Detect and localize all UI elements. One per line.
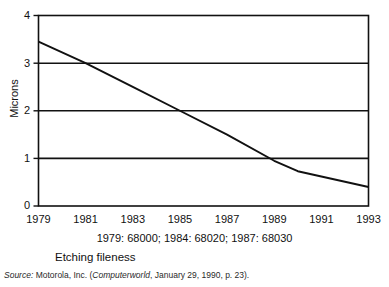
figure-etching-fineness: 0 1 2 3 4 Microns 1979 1981 1983 1985 19… bbox=[0, 0, 389, 287]
x-tick-label-1991: 1991 bbox=[301, 214, 341, 225]
chart-annotation: 1979: 68000; 1984: 68020; 1987: 68030 bbox=[0, 232, 389, 245]
source-rest: , January 29, 1990, p. 23). bbox=[150, 270, 249, 280]
x-tick-label-1993: 1993 bbox=[349, 214, 389, 225]
y-tick-label-1: 1 bbox=[8, 153, 30, 164]
x-tick-label-1985: 1985 bbox=[160, 214, 200, 225]
source-publication: Computerworld bbox=[92, 270, 150, 280]
x-tick-label-1979: 1979 bbox=[19, 214, 59, 225]
y-axis-title: Microns bbox=[9, 69, 20, 129]
chart-plot-area: 0 1 2 3 4 Microns 1979 1981 1983 1985 19… bbox=[0, 0, 389, 232]
source-prefix: Source: bbox=[4, 270, 33, 280]
source-note: Source: Motorola, Inc. (Computerworld, J… bbox=[4, 270, 249, 281]
x-tick-label-1989: 1989 bbox=[254, 214, 294, 225]
source-org: Motorola, Inc. ( bbox=[33, 270, 92, 280]
y-tick-label-0: 0 bbox=[8, 200, 30, 211]
x-tick-label-1987: 1987 bbox=[207, 214, 247, 225]
x-tick-label-1981: 1981 bbox=[66, 214, 106, 225]
figure-caption: Etching fileness bbox=[55, 250, 136, 264]
y-tick-label-4: 4 bbox=[8, 10, 30, 21]
y-tick-label-3: 3 bbox=[8, 58, 30, 69]
x-tick-label-1983: 1983 bbox=[113, 214, 153, 225]
line-chart-svg bbox=[0, 0, 389, 232]
